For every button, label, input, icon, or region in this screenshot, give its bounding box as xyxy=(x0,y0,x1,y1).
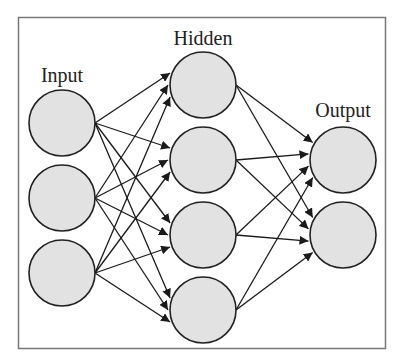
output-node-1 xyxy=(310,127,376,193)
hidden-node-1 xyxy=(170,52,236,118)
output-node-2 xyxy=(310,202,376,268)
neural-network-diagram: Input Hidden Output xyxy=(0,0,404,363)
hidden-layer-label: Hidden xyxy=(174,27,233,49)
input-node-1 xyxy=(29,90,95,156)
output-layer-label: Output xyxy=(315,99,371,122)
hidden-node-3 xyxy=(170,202,236,268)
hidden-node-2 xyxy=(170,127,236,193)
input-layer-label: Input xyxy=(41,64,84,87)
input-node-2 xyxy=(29,165,95,231)
input-node-3 xyxy=(29,240,95,306)
hidden-node-4 xyxy=(170,277,236,343)
